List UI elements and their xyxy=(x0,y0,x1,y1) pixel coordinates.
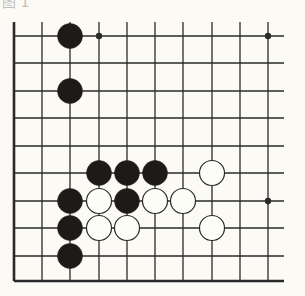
white-stone xyxy=(171,189,196,214)
black-stone xyxy=(58,79,83,104)
white-stone xyxy=(87,189,112,214)
black-stone xyxy=(58,189,83,214)
black-stone xyxy=(58,24,83,49)
white-stone xyxy=(115,216,140,241)
black-stone xyxy=(58,216,83,241)
white-stone xyxy=(143,189,168,214)
go-board xyxy=(0,0,305,296)
black-stone xyxy=(143,161,168,186)
black-stone xyxy=(115,189,140,214)
black-stone xyxy=(87,161,112,186)
star-point xyxy=(265,198,271,204)
grid-lines xyxy=(14,22,284,281)
star-point xyxy=(265,33,271,39)
white-stone xyxy=(87,216,112,241)
white-stone xyxy=(200,161,225,186)
black-stone xyxy=(58,244,83,269)
black-stone xyxy=(115,161,140,186)
white-stone xyxy=(200,216,225,241)
star-point xyxy=(96,33,102,39)
